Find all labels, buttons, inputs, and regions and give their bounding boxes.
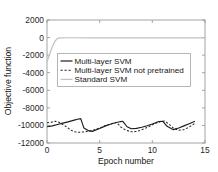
y-tick-label: 2000 (25, 15, 44, 25)
series-multilayer-svm (47, 119, 194, 132)
legend-label-standard-svm: Standard SVM (75, 75, 128, 84)
y-tick-labels: 2000 0 -2000 -4000 -6000 -8000 -10000 -1… (18, 15, 44, 148)
y-tick-label: -8000 (23, 103, 45, 113)
x-axis-title: Epoch number (98, 156, 154, 166)
y-tick-label: 0 (39, 33, 44, 43)
x-tick-label: 15 (200, 145, 210, 155)
y-tick-label: -12000 (18, 138, 44, 148)
x-tick-label: 5 (97, 145, 102, 155)
chart-figure: 2000 0 -2000 -4000 -6000 -8000 -10000 -1… (0, 0, 218, 172)
y-tick-label: -2000 (23, 50, 45, 60)
legend-label-multilayer-svm: Multi-layer SVM (75, 57, 132, 66)
x-tick-labels: 0 5 10 15 (45, 145, 210, 155)
chart-legend: Multi-layer SVM Multi-layer SVM not pret… (58, 54, 191, 87)
legend-label-multilayer-svm-not-pretrained: Multi-layer SVM not pretrained (75, 66, 184, 75)
y-axis-title: Objective function (3, 47, 13, 116)
x-tick-label: 0 (45, 145, 50, 155)
x-tick-label: 10 (148, 145, 158, 155)
y-tick-label: -4000 (23, 68, 45, 78)
y-tick-label: -10000 (18, 120, 44, 130)
series-multilayer-svm-not-pretrained (47, 121, 194, 132)
y-tick-label: -6000 (23, 85, 45, 95)
